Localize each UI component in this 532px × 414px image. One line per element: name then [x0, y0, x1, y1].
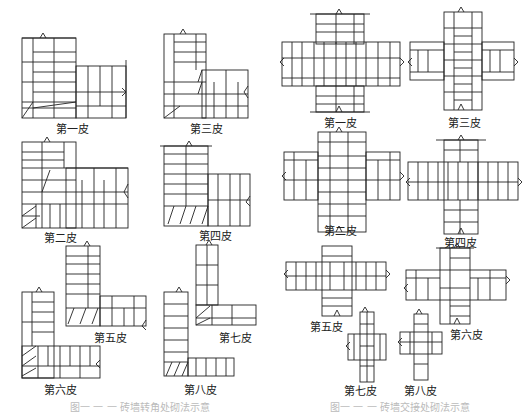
cross-course-3: [408, 7, 518, 110]
caption-left: 图一 一 一 砖墙转角处砌法示意: [70, 399, 210, 414]
label-x-course-8: 第八皮: [404, 382, 437, 398]
label-l-course-7: 第七皮: [219, 329, 252, 345]
caption-right: 图一 一 一 砖墙交接处砌法示意: [330, 399, 470, 414]
label-l-course-1: 第一皮: [56, 120, 89, 136]
label-x-course-3: 第三皮: [448, 114, 481, 130]
label-l-course-5: 第五皮: [94, 329, 127, 345]
cross-course-1: [280, 9, 404, 112]
cross-course-4: [406, 135, 522, 234]
l-corner-course-2: [22, 137, 128, 228]
cross-course-2: [282, 127, 404, 232]
label-l-course-6: 第六皮: [44, 381, 77, 397]
label-l-course-3: 第三皮: [190, 120, 223, 136]
cross-course-7: [346, 307, 386, 382]
label-l-course-8: 第八皮: [184, 381, 217, 397]
l-corner-course-7: [196, 240, 256, 325]
cross-course-6: [404, 243, 510, 324]
label-l-course-2: 第二皮: [44, 229, 77, 245]
l-corner-course-1: [22, 33, 126, 118]
cross-course-8: [398, 309, 442, 380]
label-x-course-2: 第二皮: [324, 222, 357, 238]
l-corner-course-3: [164, 29, 248, 118]
label-l-course-4: 第四皮: [199, 227, 232, 243]
label-x-course-6: 第六皮: [450, 326, 483, 342]
l-corner-course-4: [160, 141, 250, 226]
label-x-course-5: 第五皮: [310, 318, 343, 334]
label-x-course-4: 第四皮: [444, 234, 477, 250]
label-x-course-7: 第七皮: [344, 382, 377, 398]
l-corner-course-5: [66, 241, 146, 330]
label-x-course-1: 第一皮: [324, 114, 357, 130]
cross-course-5: [284, 246, 390, 316]
